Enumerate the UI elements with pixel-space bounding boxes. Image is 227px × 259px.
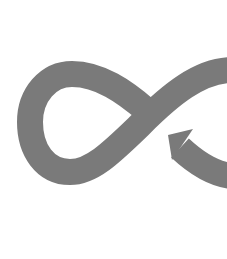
infinity-loop-graphic — [0, 0, 227, 259]
arrow-strand — [180, 148, 227, 176]
infinity-arrow-icon — [0, 0, 227, 259]
